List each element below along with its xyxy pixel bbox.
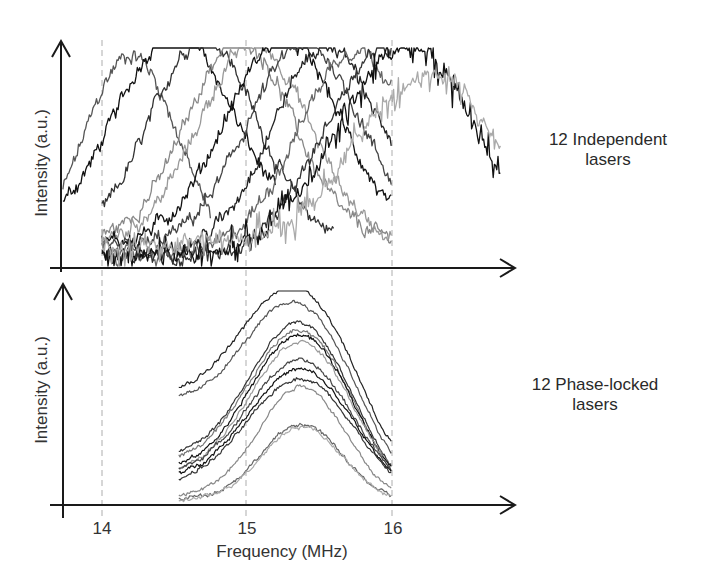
bottom-panel-annotation: 12 Phase-locked lasers xyxy=(510,375,680,415)
top-trace-4 xyxy=(102,48,391,243)
top-trace-5 xyxy=(102,48,391,244)
bottom-panel-axes xyxy=(50,284,515,518)
bottom-trace-10 xyxy=(179,385,391,496)
bottom-panel-annotation-line1: 12 Phase-locked xyxy=(510,375,680,395)
top-trace-6 xyxy=(102,48,391,248)
bottom-trace-4 xyxy=(179,330,391,466)
bottom-trace-5 xyxy=(179,334,391,467)
x-tick-14: 14 xyxy=(93,519,112,538)
top-trace-11 xyxy=(102,48,500,266)
x-axis-title: Frequency (MHz) xyxy=(216,542,347,561)
top-panel-annotation-line2: lasers xyxy=(523,150,693,170)
top-panel-annotation-line1: 12 Independent xyxy=(523,130,693,150)
bottom-panel-annotation-line2: lasers xyxy=(510,395,680,415)
x-tick-16: 16 xyxy=(384,519,403,538)
bottom-trace-11 xyxy=(179,423,391,500)
chart-figure: 14 15 16 Frequency (MHz) Intensity (a.u.… xyxy=(0,0,710,585)
top-panel-annotation: 12 Independent lasers xyxy=(523,130,693,170)
bottom-trace-12 xyxy=(179,426,391,501)
top-trace-12 xyxy=(102,67,500,266)
bottom-y-axis-title: Intensity (a.u.) xyxy=(32,336,51,444)
bottom-panel-traces xyxy=(179,291,391,502)
top-y-axis-title: Intensity (a.u.) xyxy=(32,109,51,217)
top-panel-traces xyxy=(63,48,501,266)
x-tick-15: 15 xyxy=(238,519,257,538)
